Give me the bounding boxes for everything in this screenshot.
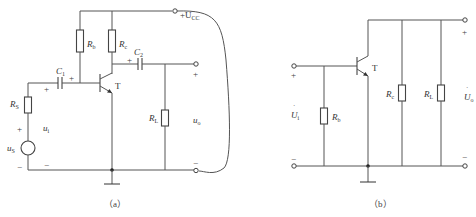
label-rc-b: Rc — [385, 89, 395, 100]
phasor-dot-uo: · — [466, 84, 468, 92]
label-c1: C1 — [56, 66, 65, 77]
label-uo-b: Uo — [464, 92, 474, 103]
resistor-rs — [25, 97, 32, 113]
label-rl: RL — [148, 113, 159, 124]
label-rs: RS — [9, 99, 19, 110]
circuit-diagrams: Rb Rc C2 C1 RS uS ui RL uo T +UCC + + + … — [0, 0, 476, 217]
sign-ui-plus-b: + — [291, 70, 296, 80]
output-terminal-plus — [194, 62, 198, 66]
figure-b: Rb Rc RL Ui · Uo · T + − + − （b） — [291, 18, 474, 209]
resistor-rc — [109, 30, 116, 52]
resistor-rb — [77, 30, 84, 52]
sign-uo-minus: − — [193, 158, 198, 168]
label-rb-b: Rb — [331, 112, 341, 123]
label-rc: Rc — [118, 39, 128, 50]
emitter-arrow-icon-b — [363, 72, 368, 76]
resistor-rb-b — [321, 108, 328, 124]
sign-ui-plus: + — [44, 84, 49, 94]
sign-uo-plus: + — [193, 69, 198, 79]
transistor-b-collector — [357, 56, 368, 62]
sign-ui-minus-b: − — [291, 154, 296, 164]
resistor-rl — [162, 110, 169, 126]
sign-ui-minus: − — [44, 160, 49, 170]
label-transistor-t: T — [115, 81, 121, 91]
output-terminal-plus-b — [463, 18, 467, 22]
supply-return-wire — [177, 11, 230, 173]
input-terminal-plus-b — [292, 64, 296, 68]
label-transistor-t-b: T — [372, 63, 378, 73]
resistor-rc-b — [399, 85, 406, 101]
label-c2: C2 — [134, 47, 143, 58]
sign-uo-minus-b: − — [462, 152, 467, 162]
sign-c2-plus: + — [127, 55, 132, 65]
caption-b: （b） — [369, 199, 392, 209]
sign-us-plus: + — [17, 124, 22, 134]
sign-uo-plus-b: + — [462, 27, 467, 37]
transistor-collector — [100, 73, 112, 79]
label-ui-b: Ui — [291, 110, 300, 121]
phasor-dot-ui: · — [293, 102, 295, 110]
figure-a: Rb Rc C2 C1 RS uS ui RL uo T +UCC + + + … — [7, 9, 230, 209]
output-terminal-minus-b — [463, 164, 467, 168]
label-rl-b: RL — [423, 89, 434, 100]
sign-us-minus: − — [17, 162, 22, 172]
label-us: uS — [7, 143, 15, 154]
voltage-source-us — [21, 141, 35, 155]
input-terminal-minus-b — [292, 164, 296, 168]
sign-c1-plus: + — [69, 73, 74, 83]
vcc-terminal — [173, 9, 177, 13]
output-terminal-minus — [194, 168, 198, 172]
resistor-rl-b — [438, 85, 445, 101]
label-ui: ui — [43, 123, 50, 134]
label-uo: uo — [193, 115, 201, 126]
caption-a: （a） — [104, 199, 126, 209]
label-rb: Rb — [86, 39, 96, 50]
